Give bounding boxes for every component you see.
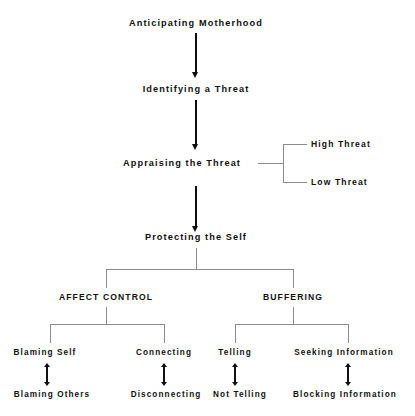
connector-connecting-drop xyxy=(164,324,165,343)
node-anticipating-motherhood: Anticipating Motherhood xyxy=(129,18,263,29)
connector-buffering-drop xyxy=(293,269,294,288)
node-appraising-the-threat: Appraising the Threat xyxy=(123,158,241,169)
double-arrow-connecting xyxy=(158,363,170,386)
connector-seeking-information-drop xyxy=(348,324,349,343)
node-protecting-the-self: Protecting the Self xyxy=(145,232,247,243)
connector-buffering-stem xyxy=(293,307,294,324)
node-disconnecting: Disconnecting xyxy=(131,389,202,400)
arrow-head-down xyxy=(44,382,50,386)
flowchart-diagram: Anticipating Motherhood Identifying a Th… xyxy=(0,0,415,416)
node-not-telling: Not Telling xyxy=(213,389,267,400)
arrow-shaft xyxy=(347,367,349,383)
arrow-shaft xyxy=(195,100,197,144)
node-blaming-others: Blaming Others xyxy=(14,389,90,400)
arrow-head-down xyxy=(232,382,238,386)
connector-affect-control-drop xyxy=(106,269,107,288)
arrow-shaft xyxy=(195,33,197,72)
double-arrow-blaming xyxy=(41,363,53,386)
arrow-anticipating-to-identifying xyxy=(189,33,203,78)
node-seeking-information: Seeking Information xyxy=(294,347,394,358)
node-telling: Telling xyxy=(218,347,251,358)
arrow-shaft xyxy=(46,367,48,383)
node-low-threat: Low Threat xyxy=(311,177,368,188)
connector-blaming-self-drop xyxy=(50,324,51,343)
double-arrow-information xyxy=(342,363,354,386)
connector-affect-control-bar xyxy=(50,324,165,325)
connector-affect-control-stem xyxy=(106,307,107,324)
arrow-shaft xyxy=(195,186,197,226)
node-blocking-information: Blocking Information xyxy=(293,389,397,400)
arrow-head xyxy=(192,72,198,78)
node-affect-control: AFFECT CONTROL xyxy=(59,292,153,303)
arrow-shaft xyxy=(163,367,165,383)
node-buffering: BUFFERING xyxy=(263,292,323,303)
arrow-identifying-to-appraising xyxy=(189,100,203,150)
bracket-arm-high xyxy=(283,144,307,145)
connector-telling-drop xyxy=(235,324,236,343)
bracket-spine xyxy=(283,144,284,183)
arrow-head-down xyxy=(161,382,167,386)
node-identifying-a-threat: Identifying a Threat xyxy=(143,84,250,95)
connector-protecting-bar xyxy=(106,269,294,270)
node-blaming-self: Blaming Self xyxy=(14,347,77,358)
connector-protecting-drop xyxy=(196,248,197,269)
node-high-threat: High Threat xyxy=(311,139,371,150)
node-connecting: Connecting xyxy=(136,347,192,358)
bracket-stem xyxy=(258,163,283,164)
arrow-shaft xyxy=(234,367,236,383)
arrow-appraising-to-protecting xyxy=(189,186,203,232)
double-arrow-telling xyxy=(229,363,241,386)
connector-buffering-bar xyxy=(235,324,349,325)
arrow-head xyxy=(192,144,198,150)
bracket-arm-low xyxy=(283,182,307,183)
arrow-head-down xyxy=(345,382,351,386)
